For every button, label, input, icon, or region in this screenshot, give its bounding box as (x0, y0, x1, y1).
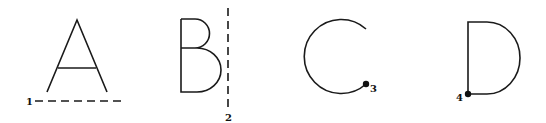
letter-c (304, 20, 366, 94)
letter-d (468, 22, 520, 94)
label-1: 1 (26, 96, 33, 107)
dot-4 (465, 91, 471, 97)
letters-diagram: 1 2 3 4 (0, 0, 546, 123)
label-4: 4 (456, 92, 463, 103)
letter-b-strokes (181, 19, 221, 92)
letter-c-arc (304, 20, 366, 94)
label-2: 2 (225, 112, 232, 123)
label-3: 3 (370, 83, 377, 94)
letter-a-strokes (47, 20, 107, 92)
letter-b (181, 8, 228, 110)
dot-3 (363, 81, 369, 87)
letter-d-strokes (468, 22, 520, 94)
letter-a (35, 20, 121, 101)
